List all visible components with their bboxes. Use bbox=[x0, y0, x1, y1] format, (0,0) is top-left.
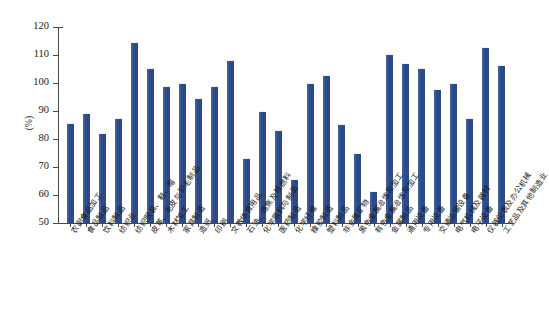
x-tick-label: 印刷 bbox=[212, 216, 230, 235]
